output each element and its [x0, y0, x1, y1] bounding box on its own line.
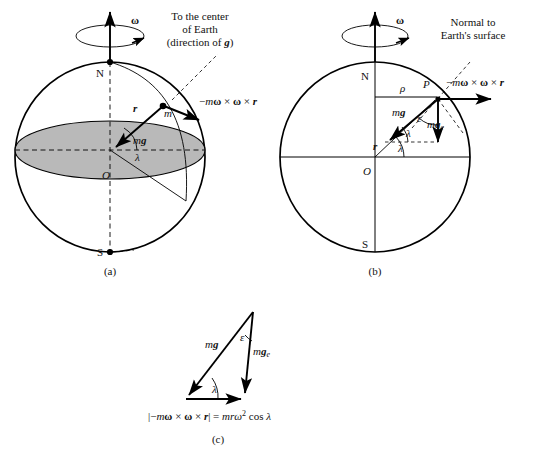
panel-b-rho-label: ρ	[399, 82, 405, 94]
panel-c-epsilon-label: ε	[240, 331, 245, 343]
panel-a-north-label: N	[96, 67, 104, 79]
panel-b-south-label: S	[362, 238, 368, 250]
panel-b-origin-label: O	[363, 165, 371, 177]
panel-b-omega-label: ω	[396, 14, 404, 26]
panel-a-callout-line3: (direction of g)	[167, 36, 234, 49]
panel-c-mg-arrow	[189, 312, 253, 395]
panel-b-centrifugal-label: −mω × ω × r	[446, 76, 505, 88]
panel-c: mg mge ε λ |−mω × ω × r| = mrω2 cos λ (c…	[148, 312, 271, 446]
panel-a-south-label: S	[97, 246, 103, 258]
panel-c-mge-arrow	[245, 312, 253, 393]
panel-a-origin-label: O	[102, 169, 110, 181]
panel-b-north-label: N	[361, 70, 369, 82]
panel-a-caption: (a)	[104, 265, 117, 278]
panel-b-r-label: r	[373, 140, 378, 152]
panel-b-callout-line1: Normal to	[451, 16, 496, 28]
panel-a-callout-line2: of Earth	[182, 23, 218, 35]
panel-b-mg-label: mg	[392, 106, 406, 118]
panel-b-mge-subscript: e	[440, 123, 444, 132]
north-pole-dot	[107, 59, 113, 65]
panel-a-r-label: r	[133, 102, 138, 114]
south-pole-dot	[107, 249, 113, 255]
panel-a-callout-line	[172, 54, 218, 100]
panel-b-callout-line2: Earth's surface	[441, 29, 506, 41]
physics-figure: ω N S m r mg	[0, 0, 537, 461]
figure-canvas: ω N S m r mg	[0, 0, 537, 461]
panel-a-omega-label: ω	[131, 14, 139, 26]
panel-b-point-label: P	[422, 78, 430, 90]
panel-c-mge-label: mge	[253, 345, 270, 359]
panel-b-epsilon-label: ε	[417, 112, 422, 124]
panel-a-callout-line1: To the center	[171, 10, 229, 22]
panel-a-centrifugal-label: −mω × ω × r	[199, 95, 258, 107]
panel-a: ω N S m r mg	[15, 10, 258, 278]
panel-b-caption: (b)	[369, 265, 382, 278]
panel-c-mge-subscript: e	[266, 350, 270, 359]
panel-c-lambda-label: λ	[211, 383, 217, 395]
panel-c-mg-label: mg	[205, 338, 219, 350]
panel-a-lambda-label: λ	[134, 151, 140, 163]
panel-b-lambda-upper-label: λ	[405, 127, 411, 139]
panel-b-lambda-lower-label: λ	[397, 142, 403, 154]
panel-c-caption: (c)	[212, 433, 225, 446]
panel-b: ω ρ N S O P Normal to Earth's surface −m	[280, 12, 505, 278]
panel-c-equation: |−mω × ω × r| = mrω2 cos λ	[148, 409, 271, 422]
